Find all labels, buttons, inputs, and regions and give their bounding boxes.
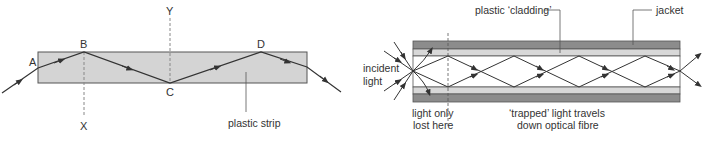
label-incident-2: light xyxy=(363,75,382,87)
label-trapped-2: down optical fibre xyxy=(517,119,599,131)
optical-fibre: plastic ‘cladding’ jacket incident light… xyxy=(363,4,699,131)
label-c: C xyxy=(166,86,174,98)
arrow-icon xyxy=(320,76,326,81)
label-incident-1: incident xyxy=(363,62,399,74)
label-lost-2: lost here xyxy=(413,119,453,131)
label-b: B xyxy=(80,38,87,50)
jacket-bottom xyxy=(413,94,680,102)
label-d: D xyxy=(257,38,265,50)
exit-rays xyxy=(680,55,699,85)
plastic-strip-diagram: A B C D X Y plastic strip xyxy=(2,5,341,132)
label-trapped-1: ‘trapped’ light travels xyxy=(509,107,605,119)
plastic-strip xyxy=(38,52,307,83)
label-jacket: jacket xyxy=(655,4,684,16)
label-y: Y xyxy=(166,5,174,17)
jacket-top xyxy=(413,41,680,49)
jacket-leader xyxy=(633,10,652,45)
label-x: X xyxy=(80,120,88,132)
label-a: A xyxy=(29,56,37,68)
label-lost-1: light only xyxy=(412,107,454,119)
label-plastic-strip: plastic strip xyxy=(228,117,281,129)
cladding-top xyxy=(413,49,680,56)
arrow-icon xyxy=(14,81,20,85)
cladding-bottom xyxy=(413,87,680,94)
label-cladding: plastic ‘cladding’ xyxy=(475,4,551,16)
optical-fibre-diagram: A B C D X Y plastic strip xyxy=(0,0,710,141)
